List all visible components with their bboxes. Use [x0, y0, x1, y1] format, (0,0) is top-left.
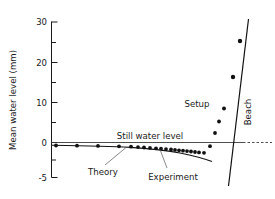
y-ticklabel-30: 30: [36, 17, 47, 27]
data-point: [193, 150, 197, 154]
experiment-label: Experiment: [148, 172, 198, 182]
mean-water-level-scatter-chart: 30 20 10 0 -5 Mean water level (mm): [0, 0, 275, 199]
data-point: [197, 151, 201, 155]
data-point: [169, 148, 173, 152]
y-ticklabel-minus5: -5: [39, 173, 47, 183]
beach-label: Beach: [243, 99, 253, 126]
data-point: [154, 146, 158, 150]
data-point: [181, 149, 185, 153]
data-point: [222, 107, 226, 111]
data-point: [117, 144, 121, 148]
data-point: [231, 75, 235, 79]
data-point: [148, 146, 152, 150]
data-point: [129, 145, 133, 149]
data-point: [159, 147, 163, 151]
y-ticklabel-10: 10: [36, 98, 47, 108]
data-point: [202, 151, 206, 155]
data-point: [142, 146, 146, 150]
chart-figure: 30 20 10 0 -5 Mean water level (mm): [0, 0, 275, 199]
data-point: [173, 148, 177, 152]
data-point: [185, 149, 189, 153]
y-axis-title: Mean water level (mm): [8, 50, 18, 150]
data-point: [54, 144, 58, 148]
data-point: [177, 148, 181, 152]
theory-label: Theory: [87, 167, 118, 177]
data-point: [75, 144, 79, 148]
data-point: [136, 145, 140, 149]
still-water-level-label: Still water level: [117, 131, 183, 141]
data-point: [213, 131, 217, 135]
data-point: [217, 120, 221, 124]
y-ticklabel-20: 20: [36, 58, 47, 68]
data-point: [208, 144, 212, 148]
setup-label: Setup: [184, 99, 209, 109]
data-point: [189, 150, 193, 154]
y-ticklabel-0: 0: [42, 138, 47, 148]
data-point: [238, 39, 242, 43]
data-point: [96, 144, 100, 148]
data-point: [164, 147, 168, 151]
